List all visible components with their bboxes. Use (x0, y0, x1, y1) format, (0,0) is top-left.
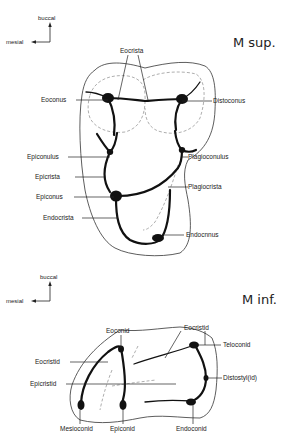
endoconid-mesial-crest (145, 400, 192, 402)
upper-dashed-outline-mesial (88, 76, 145, 133)
eoconus-label: Eoconus (41, 96, 67, 103)
buccal-label: buccal (38, 15, 55, 21)
distoconus-label: Distoconus (213, 97, 246, 104)
plagioconulus-crest (175, 131, 196, 152)
teloconid-distostylid-crest (195, 345, 206, 378)
epicrista-label: Epicrista (35, 173, 60, 181)
orientation-indicator-lower: buccal mesial (6, 274, 57, 304)
eocristid-mesial-crest (81, 346, 121, 403)
distoconus-cusp (176, 94, 188, 104)
lower-dashed-left (100, 370, 112, 410)
eocristid-top-label: Eocristid (184, 324, 209, 331)
plagiocrista-label: Plagiocrista (188, 183, 222, 191)
eocristid-left-label: Eocristid (35, 358, 60, 365)
epiconulus-cusp (107, 149, 113, 155)
distostylid-cusp (204, 375, 209, 381)
lower-molar-diagram: buccal mesial M inf. (6, 274, 277, 433)
epiconid-label: Epiconid (110, 425, 135, 433)
epiconus-label: Epiconus (36, 193, 63, 201)
upper-molar-diagram: buccal mesial M sup. (6, 15, 276, 256)
distostylid-label: Distostyl(id) (223, 374, 257, 382)
mesioconid-label: Mesioconid (60, 425, 93, 432)
lower-crown-outline (70, 327, 217, 423)
epiconus-cusp (110, 191, 122, 202)
plagioconulus-label: Plagioconulus (188, 153, 229, 161)
eoconus-lingual-arm (108, 98, 115, 135)
endoconid-label: Endoconid (176, 425, 207, 432)
plagiocrista-crest (118, 150, 182, 196)
plagioconulus-cusp (179, 147, 185, 153)
epicristid-label: Epicristid (30, 380, 57, 388)
orientation-indicator-upper: buccal mesial (6, 15, 55, 45)
epicrista-crest (105, 152, 110, 192)
buccal-label-lower: buccal (40, 274, 57, 280)
eocrista-label: Eocrista (120, 47, 144, 54)
endoconus-label: Endocnnus (186, 231, 219, 238)
upper-dashed-outline-distal (143, 72, 204, 133)
epiconulus-label: Epiconulus (27, 153, 60, 161)
eoconus-cusp (102, 93, 114, 103)
lower-dashed-mid (112, 380, 156, 386)
mesial-label: mesial (6, 39, 23, 45)
endoconid-cusp (186, 399, 196, 406)
endocrista-label: Endocrista (43, 214, 74, 221)
mesial-label-lower: mesial (6, 298, 23, 304)
eoconid-label: Eoconid (106, 327, 130, 334)
upper-molar-title: M sup. (233, 35, 276, 50)
teloconid-label: Teloconid (223, 341, 251, 348)
mesioconid-cusp (78, 400, 85, 410)
distostylid-endoconid-crest (192, 378, 206, 401)
molar-nomenclature-figure: buccal mesial M sup. (0, 0, 288, 441)
endoconus-lingual-crest (160, 190, 170, 240)
lower-molar-title: M inf. (242, 292, 277, 307)
epiconid-cusp (120, 400, 127, 410)
teloconid-cusp (189, 342, 199, 349)
epicristid-crest (121, 348, 125, 405)
eocristid-distal-crest (134, 345, 195, 364)
lower-dashed-upper (132, 346, 138, 358)
